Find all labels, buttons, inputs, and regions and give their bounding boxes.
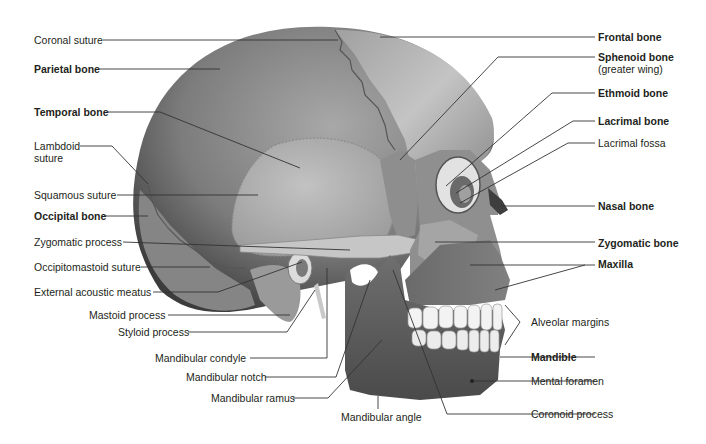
label-sphenoid-line1: Sphenoid bone: [598, 51, 674, 63]
label-coronal-suture: Coronal suture: [34, 34, 103, 46]
label-zygomatic-bone: Zygomatic bone: [598, 237, 679, 249]
label-sphenoid-bone: Sphenoid bone (greater wing): [598, 51, 674, 75]
label-mental-foramen: Mental foramen: [531, 375, 604, 387]
label-nasal-bone: Nasal bone: [598, 200, 654, 212]
label-lacrimal-bone: Lacrimal bone: [598, 115, 669, 127]
label-lambdoid-line2: suture: [34, 152, 63, 164]
mental-foramen-shape: [470, 379, 474, 383]
label-temporal-bone: Temporal bone: [34, 106, 108, 118]
label-occipitomastoid-suture: Occipitomastoid suture: [34, 261, 141, 273]
label-sphenoid-line2: (greater wing): [598, 63, 663, 75]
label-coronoid-process: Coronoid process: [531, 408, 613, 420]
label-styloid-process: Styloid process: [118, 326, 189, 338]
label-mandibular-notch: Mandibular notch: [186, 371, 267, 383]
label-mandible: Mandible: [531, 351, 577, 363]
label-mandibular-ramus: Mandibular ramus: [211, 392, 295, 404]
label-mandibular-condyle: Mandibular condyle: [155, 352, 246, 364]
label-mandibular-angle: Mandibular angle: [341, 411, 422, 423]
label-mastoid-process: Mastoid process: [89, 309, 165, 321]
label-alveolar-margins: Alveolar margins: [531, 316, 609, 328]
label-lacrimal-fossa: Lacrimal fossa: [598, 137, 666, 149]
label-external-acoustic-meatus: External acoustic meatus: [34, 286, 151, 298]
label-ethmoid-bone: Ethmoid bone: [598, 87, 668, 99]
label-lambdoid-line1: Lambdoid: [34, 140, 80, 152]
label-occipital-bone: Occipital bone: [34, 210, 106, 222]
label-squamous-suture: Squamous suture: [34, 189, 116, 201]
label-frontal-bone: Frontal bone: [598, 31, 662, 43]
skull-diagram: Coronal suture Parietal bone Temporal bo…: [0, 0, 706, 444]
styloid-shape: [314, 283, 326, 319]
label-maxilla: Maxilla: [598, 258, 633, 270]
label-lambdoid-suture: Lambdoid suture: [34, 140, 80, 164]
label-zygomatic-process: Zygomatic process: [34, 236, 122, 248]
label-parietal-bone: Parietal bone: [34, 63, 100, 75]
